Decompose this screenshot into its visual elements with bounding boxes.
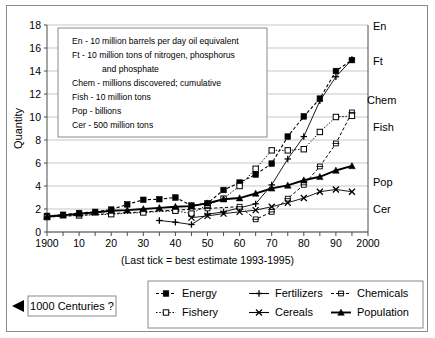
x-axis-caption: (Last tick = best estimate 1993-1995) [121,254,294,266]
y-tick-label-18: 18 [29,19,41,31]
annotation-line-0: En - 10 million barrels per day oil equi… [72,36,239,46]
data-point-fertilizers-1945 [188,221,194,227]
data-point-fishery-1975 [285,148,290,153]
series-end-label-pop: Pop [373,176,393,188]
data-point-fishery-1960 [237,183,242,188]
y-tick-labels: 024681012141618 [29,19,41,238]
data-point-energy-1990 [333,68,339,74]
legend-marker-open-square-icon [163,310,168,315]
x-tick-label-1970: 70 [266,237,278,249]
series-cereals [188,186,355,220]
legend-label-cereals: Cereals [275,306,313,318]
y-tick-label-4: 4 [35,180,41,192]
series-end-label-ft: Ft [373,55,383,67]
x-tick-label-1910: 10 [73,237,85,249]
y-axis-title: Quantity [12,108,24,149]
series-population [44,162,356,219]
x-tick-label-1940: 40 [170,237,182,249]
data-point-fertilizers-1975 [285,156,291,162]
annotation-line-5: Pop - billions [72,106,121,116]
series-end-label-fish: Fish [373,121,394,133]
x-tick-label-1950: 50 [202,237,214,249]
x-tick-label-1980: 80 [298,237,310,249]
series-end-label-en: En [373,20,386,32]
x-tick-labels: 19001020304050607080902000 [35,237,380,249]
y-tick-label-6: 6 [35,157,41,169]
data-point-fishery-1980 [301,147,306,152]
annotation-line-6: Cer - 500 million tons [72,120,153,130]
centuries-note-label: 1000 Centuries ? [30,300,114,312]
y-tick-label-8: 8 [35,134,41,146]
series-end-labels: EnFtChemFishPopCer [367,20,396,215]
annotation-line-1: Ft - 10 million tons of nitrogen, phosph… [72,50,235,60]
annotation-line-3: Chem - millions discovered; cumulative [72,78,221,88]
y-tick-label-12: 12 [29,88,41,100]
y-tick-label-16: 16 [29,42,41,54]
data-point-fishery-1990 [333,114,338,119]
data-point-fishery-1970 [269,148,274,153]
legend-label-chemicals: Chemicals [357,287,409,299]
data-point-chemicals-1990 [333,141,340,146]
legend[interactable]: EnergyFertilizersChemicalsFisheryCereals… [148,281,423,328]
y-tick-label-10: 10 [29,111,41,123]
legend-label-fishery: Fishery [182,306,219,318]
x-tick-label-1960: 60 [234,237,246,249]
annotation-box: En - 10 million barrels per day oil equi… [58,28,267,137]
chart-canvas: 024681012141618 190010203040506070809020… [0,0,435,338]
legend-marker-small-square-icon [338,291,345,296]
data-point-energy-1930 [141,197,147,203]
x-tick-label-1930: 30 [137,237,149,249]
x-tick-label-2000: 2000 [356,237,380,249]
data-point-energy-1980 [301,114,307,120]
series-end-label-chem: Chem [367,94,396,106]
annotation-line-2: and phosphate [102,64,159,74]
data-point-fertilizers-1940 [172,219,178,225]
y-tick-label-0: 0 [35,226,41,238]
annotation-line-4: Fish - 10 million tons [72,92,151,102]
data-point-fertilizers-1980 [301,133,307,139]
data-point-fishery-1965 [253,166,258,171]
data-point-cereals-1980 [301,195,307,201]
data-point-energy-1940 [173,195,179,201]
x-tick-label-1900: 1900 [35,237,59,249]
y-tick-label-2: 2 [35,203,41,215]
legend-label-population: Population [357,306,409,318]
data-point-fertilizers-1935 [156,217,162,223]
series-end-label-cer: Cer [373,203,391,215]
data-point-chemicals-1965 [252,217,259,222]
chart-figure: 024681012141618 190010203040506070809020… [0,0,435,338]
data-point-energy-1965 [253,172,259,178]
data-point-fishery-1995 [349,113,354,118]
data-point-chemicals-1970 [268,209,275,214]
legend-marker-filled-square-icon [163,291,169,297]
y-tick-label-14: 14 [29,65,41,77]
x-tick-label-1990: 90 [330,237,342,249]
legend-label-fertilizers: Fertilizers [275,287,323,299]
data-point-fishery-1985 [317,129,322,134]
x-tick-label-1920: 20 [105,237,117,249]
data-point-chemicals-1960 [236,204,243,209]
data-point-energy-1975 [285,134,291,140]
data-point-energy-1935 [157,196,163,202]
data-point-energy-1970 [269,161,275,167]
left-triangle-icon [12,300,24,312]
legend-label-energy: Energy [182,287,217,299]
data-point-chemicals-1985 [316,164,323,169]
data-point-energy-1955 [221,187,227,193]
